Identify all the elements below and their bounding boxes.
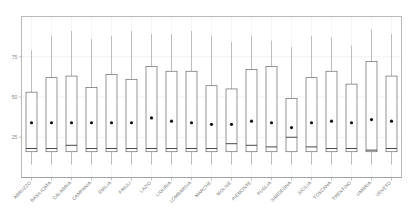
- box-plot-item: [126, 31, 137, 165]
- mean-marker: [110, 121, 113, 124]
- mean-marker: [90, 121, 93, 124]
- box-plot-item: [246, 36, 257, 165]
- mean-marker: [30, 121, 33, 124]
- x-axis-category-label: TRENTINO: [331, 180, 352, 201]
- x-axis-labels: ABRUZZOBASILICATACALABRIACAMPANIAEMILIAF…: [12, 180, 392, 204]
- box-rect: [126, 79, 137, 151]
- box-plot-item: [186, 31, 197, 165]
- x-axis-category-label: MOLISE: [216, 180, 232, 196]
- box-plot-item: [226, 42, 237, 164]
- x-axis-category-label: CALABRIA: [52, 180, 73, 201]
- box-rect: [266, 66, 277, 151]
- x-axis-category-label: PUGLIA: [256, 180, 273, 197]
- mean-marker: [330, 120, 333, 123]
- box-rect: [66, 76, 77, 152]
- box-plot-item: [346, 45, 357, 164]
- mean-marker: [50, 121, 53, 124]
- box-plot-item: [206, 36, 217, 165]
- box-rect: [346, 84, 357, 152]
- box-plot-item: [386, 34, 397, 164]
- y-tick-label: 75: [12, 54, 18, 60]
- box-plot-item: [26, 50, 37, 164]
- box-rect: [246, 70, 257, 152]
- mean-marker: [290, 126, 293, 129]
- mean-marker: [130, 121, 133, 124]
- x-axis-category-label: FRIULI: [118, 180, 132, 194]
- box-rect: [366, 62, 377, 152]
- box-rect: [86, 87, 97, 151]
- box-rect: [186, 71, 197, 151]
- mean-marker: [230, 123, 233, 126]
- mean-marker: [310, 121, 313, 124]
- mean-marker: [170, 120, 173, 123]
- box-rect: [46, 78, 57, 152]
- box-plot-item: [306, 36, 317, 165]
- box-plot-item: [66, 31, 77, 165]
- y-tick-label: 25: [12, 134, 18, 140]
- x-axis-category-label: PIEMONTE: [231, 180, 252, 201]
- x-axis-category-label: LAZIO: [139, 180, 153, 194]
- mean-marker: [150, 116, 153, 119]
- x-axis-category-label: SICILIA: [297, 180, 313, 196]
- boxplot-figure: 255075 ABRUZZOBASILICATACALABRIACAMPANIA…: [0, 0, 413, 221]
- x-axis-category-label: MARCHE: [194, 180, 212, 198]
- mean-marker: [210, 123, 213, 126]
- mean-marker: [190, 121, 193, 124]
- box-plot-item: [166, 34, 177, 164]
- box-rect: [146, 66, 157, 151]
- box-rect: [306, 78, 317, 152]
- box-rect: [286, 99, 297, 152]
- box-rect: [386, 76, 397, 152]
- x-axis-category-label: SARDEGNA: [270, 180, 293, 203]
- box-plot-item: [46, 36, 57, 165]
- mean-marker: [350, 121, 353, 124]
- y-axis-ticks: 255075: [12, 54, 22, 140]
- box-plot-item: [106, 36, 117, 165]
- x-axis-category-label: ABRUZZO: [12, 180, 32, 200]
- mean-marker: [370, 118, 373, 121]
- box-plot-item: [146, 34, 157, 164]
- boxplot-svg: 255075 ABRUZZOBASILICATACALABRIACAMPANIA…: [0, 0, 413, 221]
- x-axis-category-label: CAMPANIA: [71, 180, 93, 202]
- x-axis-category-label: EMILIA: [97, 180, 112, 195]
- box-rect: [226, 89, 237, 152]
- box-rect: [166, 71, 177, 151]
- mean-marker: [270, 121, 273, 124]
- box-plot-item: [366, 29, 377, 164]
- box-plot-item: [286, 47, 297, 165]
- y-tick-label: 50: [12, 94, 18, 100]
- x-axis-category-label: LIGURIA: [155, 180, 173, 198]
- mean-marker: [250, 120, 253, 123]
- box-plot-item: [266, 41, 277, 165]
- mean-marker: [390, 120, 393, 123]
- x-axis-category-label: TOSCANA: [312, 180, 332, 200]
- box-rect: [106, 74, 117, 151]
- x-axis-category-label: BASILICATA: [29, 180, 52, 203]
- box-plot-item: [86, 39, 97, 165]
- x-axis-category-label: VENETO: [375, 180, 393, 198]
- box-rect: [326, 71, 337, 151]
- box-rect: [206, 86, 217, 152]
- mean-marker: [70, 121, 73, 124]
- x-axis-category-label: LOMBARDIA: [169, 180, 193, 204]
- x-axis-category-label: UMBRIA: [355, 180, 372, 197]
